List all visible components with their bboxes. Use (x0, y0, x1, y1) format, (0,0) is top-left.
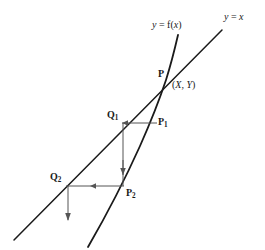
point-label-Q1-base: Q (107, 109, 115, 120)
figure-background (0, 0, 265, 250)
point-label-Q1: Q1 (107, 110, 118, 122)
line-label-x: x (239, 11, 243, 22)
curve-label-eq: = f( (156, 19, 173, 30)
point-label-P1: P1 (158, 117, 168, 129)
point-label-Q2: Q2 (50, 172, 61, 184)
point-label-P2-subscript: 2 (132, 192, 136, 200)
point-label-Q2-subscript: 2 (58, 176, 62, 184)
point-label-P1-subscript: 1 (164, 121, 168, 129)
point-label-Q1-subscript: 1 (115, 114, 119, 122)
line-label-y-equals-x: y = x (224, 12, 244, 22)
point-label-P2: P2 (126, 188, 136, 200)
curve-label-close: ) (178, 19, 181, 30)
line-label-eq: = (228, 11, 239, 22)
curve-label-y-equals-f-of-x: y = f(x) (152, 20, 182, 30)
cobweb-diagram (0, 0, 265, 250)
point-coords-XY: (X, Y) (172, 80, 195, 90)
coords-close: ) (192, 79, 195, 90)
point-label-Q2-base: Q (50, 171, 58, 182)
point-label-P: P (158, 69, 164, 79)
